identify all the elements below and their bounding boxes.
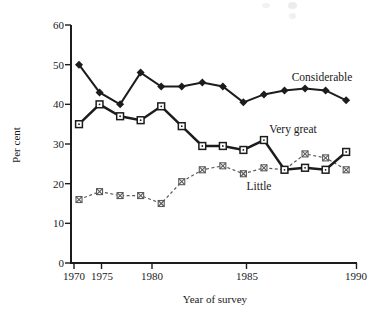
y-tick-label: 0 (40, 257, 64, 269)
x-tick-label: 1980 (134, 270, 170, 282)
series-label-little: Little (229, 180, 289, 192)
series-label-very-great: Very great (248, 123, 338, 135)
square-marker-dot (304, 167, 306, 169)
square-marker-dot (78, 123, 80, 125)
diamond-marker (281, 86, 289, 94)
diamond-marker (301, 84, 309, 92)
x-tick-label: 1975 (84, 270, 120, 282)
square-marker-dot (345, 151, 347, 153)
x-tick-label: 1985 (229, 270, 265, 282)
diamond-marker (178, 82, 186, 90)
y-axis-title: Per cent (10, 110, 24, 180)
square-marker-dot (222, 145, 224, 147)
scan-artifact (262, 3, 270, 8)
scan-artifact (289, 13, 296, 19)
y-tick-label: 60 (40, 19, 64, 31)
square-marker-dot (201, 145, 203, 147)
square-marker-dot (243, 149, 245, 151)
chart-figure: 60 50 40 30 20 10 0 1970 1975 1980 1985 … (0, 0, 382, 315)
square-marker-dot (263, 139, 265, 141)
square-marker-dot (119, 115, 121, 117)
square-marker-dot (99, 103, 101, 105)
square-marker-dot (325, 169, 327, 171)
square-marker-dot (140, 119, 142, 121)
diamond-marker (342, 96, 350, 104)
series-label-considerable: Considerable (267, 71, 377, 83)
y-tick-label: 30 (40, 138, 64, 150)
x-tick-label: 1990 (338, 270, 374, 282)
square-marker-dot (284, 169, 286, 171)
y-tick-label: 50 (40, 59, 64, 71)
diamond-marker (322, 86, 330, 94)
scan-artifact (288, 2, 297, 9)
square-marker-dot (160, 105, 162, 107)
x-axis-title: Year of survey (145, 293, 285, 305)
diamond-marker (198, 79, 206, 87)
y-tick-label: 20 (40, 178, 64, 190)
y-tick-label: 10 (40, 217, 64, 229)
y-tick-label: 40 (40, 98, 64, 110)
square-marker-dot (181, 125, 183, 127)
diamond-marker (260, 90, 268, 98)
axis-line (71, 25, 357, 263)
